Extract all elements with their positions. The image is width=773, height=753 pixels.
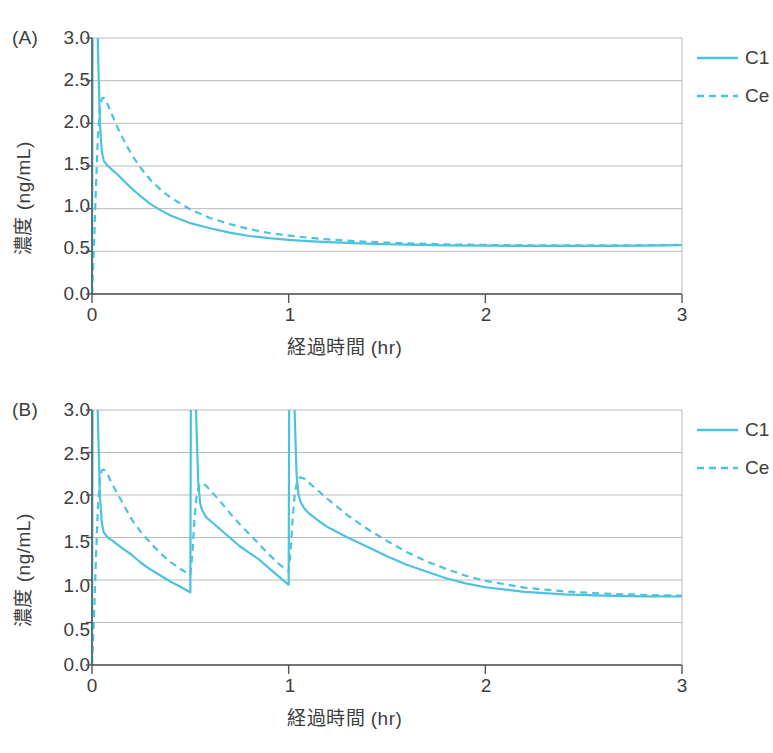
panel-a-legend-ce-label: Ce bbox=[745, 85, 769, 107]
panel-b-legend-ce-label: Ce bbox=[745, 457, 769, 479]
panel-b-legend-c1-label: C1 bbox=[745, 419, 769, 441]
panel-a-legend-c1-label: C1 bbox=[745, 47, 769, 69]
panel-b: (B) 濃度 (ng/mL) 3.0 2.5 2.0 1.5 1.0 0.5 0… bbox=[0, 377, 773, 753]
series-Ce bbox=[92, 98, 682, 294]
panel-a-plot bbox=[0, 0, 773, 376]
series-Ce bbox=[92, 470, 682, 666]
series-C1 bbox=[92, 0, 682, 294]
panel-b-plot bbox=[0, 377, 773, 753]
panel-a: (A) 濃度 (ng/mL) 3.0 2.5 2.0 1.5 1.0 0.5 0… bbox=[0, 0, 773, 376]
